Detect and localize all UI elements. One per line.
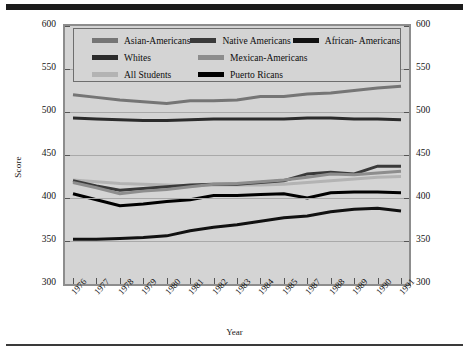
series-line-whites <box>73 118 401 121</box>
y-axis-title: Score <box>13 137 23 197</box>
gridline <box>65 155 409 156</box>
legend-swatch-icon <box>190 38 216 43</box>
y-tick-label-right: 500 <box>416 105 446 115</box>
legend-label: Whites <box>124 53 151 63</box>
bottom-rule-divider <box>6 344 463 346</box>
legend-item-mexican-americans: Mexican-Americans <box>198 53 314 63</box>
y-tick-right <box>404 112 409 113</box>
y-tick-label: 500 <box>26 105 56 115</box>
y-tick-label-right: 550 <box>416 62 446 72</box>
y-tick-right <box>404 198 409 199</box>
series-line-african-americans <box>73 208 401 239</box>
legend-row: Asian-Americans Native Americans African… <box>74 32 400 49</box>
legend-swatch-icon <box>92 72 118 77</box>
legend-swatch-icon <box>92 55 118 60</box>
y-tick-left <box>65 26 70 27</box>
series-line-asian-americans <box>73 86 401 103</box>
y-tick-label: 550 <box>26 62 56 72</box>
y-tick-label: 600 <box>26 19 56 29</box>
y-tick-label-right: 300 <box>416 277 446 287</box>
legend-swatch-icon <box>293 38 319 43</box>
legend-row: Whites Mexican-Americans <box>74 49 400 66</box>
legend-label: Native Americans <box>222 36 290 46</box>
legend-item-native-americans: Native Americans <box>190 36 292 46</box>
legend-item-asian-americans: Asian-Americans <box>74 36 190 46</box>
gridline <box>65 112 409 113</box>
y-tick-label: 300 <box>26 277 56 287</box>
y-tick-label-right: 350 <box>416 234 446 244</box>
y-tick-left <box>65 198 70 199</box>
y-tick-right <box>404 69 409 70</box>
top-rule-divider <box>6 4 463 10</box>
legend-label: Puerto Ricans <box>230 70 283 80</box>
y-tick-label: 450 <box>26 148 56 158</box>
y-tick-left <box>65 241 70 242</box>
figure-container: Score Year Asian-Americans Native Americ… <box>0 0 469 353</box>
y-tick-label: 400 <box>26 191 56 201</box>
y-tick-label-right: 400 <box>416 191 446 201</box>
gridline <box>65 241 409 242</box>
legend-item-all-students: All Students <box>74 70 198 80</box>
y-tick-right <box>404 241 409 242</box>
legend-swatch-icon <box>198 72 224 77</box>
chart-legend: Asian-Americans Native Americans African… <box>73 28 401 82</box>
legend-label: All Students <box>124 70 171 80</box>
legend-item-puerto-ricans: Puerto Ricans <box>198 70 314 80</box>
y-tick-right <box>404 26 409 27</box>
legend-label: African- Americans <box>325 36 400 46</box>
y-tick-label: 350 <box>26 234 56 244</box>
gridline <box>65 198 409 199</box>
y-tick-left <box>65 155 70 156</box>
legend-label: Mexican-Americans <box>230 53 308 63</box>
y-tick-left <box>65 69 70 70</box>
legend-item-whites: Whites <box>74 53 198 63</box>
y-tick-right <box>404 155 409 156</box>
y-tick-left <box>65 112 70 113</box>
y-tick-label-right: 600 <box>416 19 446 29</box>
legend-row: All Students Puerto Ricans <box>74 66 400 83</box>
x-axis-title: Year <box>0 327 469 337</box>
legend-item-african-americans: African- Americans <box>293 36 400 46</box>
legend-swatch-icon <box>92 38 118 43</box>
y-tick-label-right: 450 <box>416 148 446 158</box>
legend-swatch-icon <box>198 55 224 60</box>
legend-label: Asian-Americans <box>124 36 190 46</box>
